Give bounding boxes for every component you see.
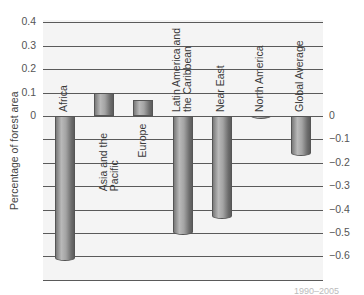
y-tick-right: −0.6 bbox=[329, 249, 350, 261]
category-label: Africa bbox=[58, 85, 69, 112]
category-label: Asia and the Pacific bbox=[98, 133, 120, 191]
bar bbox=[212, 116, 232, 219]
bar bbox=[55, 116, 75, 261]
footer-note: 1990–2005 bbox=[294, 286, 339, 295]
category-label: Global Average bbox=[294, 40, 305, 112]
bar bbox=[94, 93, 114, 116]
y-tick-right: 0 bbox=[329, 109, 335, 121]
y-tick-left: 0.2 bbox=[2, 62, 36, 74]
y-tick-right: −0.5 bbox=[329, 226, 350, 238]
gridline bbox=[43, 22, 323, 23]
bar bbox=[291, 116, 311, 156]
y-tick-right: −0.1 bbox=[329, 132, 350, 144]
y-axis-label: Percentage of forest area bbox=[8, 92, 20, 211]
gridline bbox=[43, 280, 323, 281]
y-tick-right: −0.2 bbox=[329, 156, 350, 168]
bar bbox=[133, 100, 153, 116]
category-label: Latin America and the Caribbean bbox=[171, 28, 193, 112]
forest-area-change-chart: 0.40.30.20.100−0.1−0.2−0.3−0.4−0.5−0.6 P… bbox=[0, 0, 364, 295]
category-label: Europe bbox=[137, 124, 148, 158]
category-label: North America bbox=[254, 45, 265, 112]
y-tick-right: −0.4 bbox=[329, 203, 350, 215]
y-tick-left: 0.3 bbox=[2, 39, 36, 51]
y-tick-right: −0.3 bbox=[329, 179, 350, 191]
bar bbox=[173, 116, 193, 235]
category-label: Near East bbox=[215, 65, 226, 112]
y-tick-left: 0.4 bbox=[2, 15, 36, 27]
gridline bbox=[43, 256, 323, 257]
